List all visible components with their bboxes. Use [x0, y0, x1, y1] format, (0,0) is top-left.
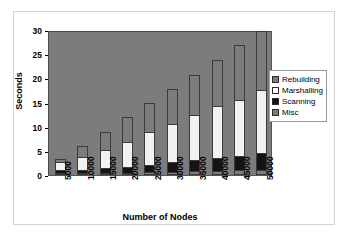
legend-item: Scanning	[272, 96, 323, 107]
legend-item-label: Rebuilding	[282, 75, 320, 85]
legend-item: Rebuilding	[272, 74, 323, 85]
bar-segment-rebuilding	[212, 60, 223, 106]
bar-segment-rebuilding	[189, 75, 200, 115]
legend-item: Marshalling	[272, 85, 323, 96]
x-tick-label: 45000	[242, 156, 252, 180]
x-tick-label: 20000	[130, 156, 140, 180]
bar-segment-marshalling	[256, 90, 267, 153]
x-tick-label: 25000	[153, 156, 163, 180]
legend-swatch-rebuilding-icon	[272, 76, 279, 83]
y-tick-label: 10	[20, 123, 42, 133]
bar-segment-rebuilding	[122, 117, 133, 142]
bar-segment-rebuilding	[234, 45, 245, 100]
x-tick-label: 30000	[175, 156, 185, 180]
bar-segment-marshalling	[212, 106, 223, 158]
y-tick-label: 15	[20, 99, 42, 109]
legend: RebuildingMarshallingScanningMisc	[269, 70, 327, 122]
bar-segment-marshalling	[189, 115, 200, 160]
legend-swatch-misc-icon	[272, 109, 279, 116]
x-tick-label: 5000	[63, 161, 73, 180]
bar-segment-rebuilding	[256, 31, 267, 90]
x-tick-label: 50000	[265, 156, 275, 180]
y-tick-label: 20	[20, 74, 42, 84]
legend-item-label: Marshalling	[282, 86, 323, 96]
x-tick-label: 40000	[220, 156, 230, 180]
y-tick-mark	[45, 176, 48, 177]
y-tick-label: 5	[20, 147, 42, 157]
x-axis-title: Number of Nodes	[48, 212, 272, 222]
plot-area	[48, 31, 272, 176]
bar-group	[256, 31, 267, 175]
y-axis-title: Seconds	[14, 56, 24, 126]
x-tick-label: 15000	[108, 156, 118, 180]
legend-item: Misc	[272, 107, 323, 118]
bar-segment-rebuilding	[167, 89, 178, 124]
y-tick-label: 30	[20, 26, 42, 36]
bar-segment-rebuilding	[77, 146, 88, 157]
bar-segment-rebuilding	[144, 103, 155, 133]
legend-item-label: Misc	[282, 108, 298, 118]
bar-segment-marshalling	[234, 100, 245, 156]
legend-swatch-marshalling-icon	[272, 87, 279, 94]
x-tick-label: 10000	[86, 156, 96, 180]
y-tick-label: 25	[20, 50, 42, 60]
stacked-bar	[256, 31, 267, 175]
legend-swatch-scanning-icon	[272, 98, 279, 105]
legend-item-label: Scanning	[282, 97, 315, 107]
bars-container	[49, 32, 271, 175]
bar-segment-rebuilding	[100, 132, 111, 150]
y-tick-label: 0	[20, 171, 42, 181]
chart-figure: Seconds 051015202530 5000100001500020000…	[0, 0, 347, 250]
x-tick-label: 35000	[198, 156, 208, 180]
